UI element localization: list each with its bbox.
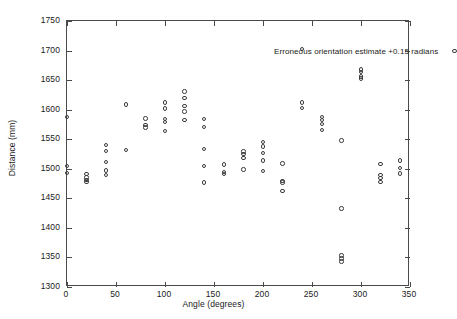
y-tick-label-1600: 1600 (20, 104, 60, 114)
y-tick-label-1500: 1500 (20, 163, 60, 173)
data-point (124, 148, 128, 152)
x-tick-top-50 (116, 21, 117, 26)
x-tick-250 (312, 282, 313, 287)
x-tick-label-350: 350 (389, 289, 429, 299)
data-point (202, 164, 206, 168)
y-tick-1450 (67, 198, 72, 199)
data-point (124, 102, 128, 106)
x-tick-350 (410, 282, 411, 287)
y-tick-1350 (67, 257, 72, 258)
x-tick-100 (165, 282, 166, 287)
x-tick-300 (361, 282, 362, 287)
x-tick-label-50: 50 (95, 289, 135, 299)
data-point (202, 147, 206, 151)
data-point (300, 100, 304, 104)
y-tick-right-1550 (405, 139, 410, 140)
data-point (65, 115, 69, 119)
x-tick-label-100: 100 (144, 289, 184, 299)
y-tick-right-1450 (405, 198, 410, 199)
data-point (339, 206, 343, 210)
data-point (378, 180, 382, 184)
x-tick-top-300 (361, 21, 362, 26)
data-point (241, 156, 245, 160)
data-point (104, 160, 108, 164)
y-tick-label-1450: 1450 (20, 192, 60, 202)
y-tick-right-1650 (405, 80, 410, 81)
data-point (143, 116, 147, 120)
data-point (261, 158, 265, 162)
y-tick-1700 (67, 51, 72, 52)
x-tick-0 (67, 282, 68, 287)
legend-label-0: Erroneous orientation estimate +0.15 rad… (274, 47, 438, 56)
y-tick-1600 (67, 110, 72, 111)
data-point (104, 149, 108, 153)
y-tick-label-1700: 1700 (20, 45, 60, 55)
y-tick-1500 (67, 169, 72, 170)
data-point (339, 259, 343, 263)
y-tick-label-1650: 1650 (20, 74, 60, 84)
data-point (202, 180, 206, 184)
data-point (104, 143, 108, 147)
x-tick-50 (116, 282, 117, 287)
data-point (280, 189, 284, 193)
data-point (280, 180, 284, 184)
plot-area: Erroneous orientation estimate +0.15 rad… (66, 20, 409, 286)
y-tick-label-1350: 1350 (20, 251, 60, 261)
data-point (261, 144, 265, 148)
data-point (143, 125, 147, 129)
legend: Erroneous orientation estimate +0.15 rad… (274, 45, 457, 57)
y-tick-1400 (67, 228, 72, 229)
x-tick-label-200: 200 (242, 289, 282, 299)
data-point (104, 173, 108, 177)
data-point (163, 106, 167, 110)
y-tick-1300 (67, 287, 72, 288)
legend-marker-open-circle (452, 49, 457, 54)
data-point (241, 167, 245, 171)
data-point (261, 169, 265, 173)
x-tick-label-250: 250 (291, 289, 331, 299)
data-point (182, 109, 186, 113)
data-point (65, 171, 69, 175)
data-point (320, 128, 324, 132)
data-point (163, 129, 167, 133)
x-tick-top-250 (312, 21, 313, 26)
data-point (202, 117, 206, 121)
data-point (65, 164, 69, 168)
x-tick-label-0: 0 (46, 289, 86, 299)
data-point (339, 138, 343, 142)
data-point (398, 166, 402, 170)
y-tick-1550 (67, 139, 72, 140)
data-point (378, 162, 382, 166)
y-tick-right-1350 (405, 257, 410, 258)
data-point (163, 100, 167, 104)
data-point (359, 70, 363, 74)
data-point (202, 125, 206, 129)
y-tick-right-1600 (405, 110, 410, 111)
data-point (222, 162, 226, 166)
x-tick-top-0 (67, 21, 68, 26)
data-point (398, 171, 402, 175)
data-point (320, 122, 324, 126)
data-point (300, 106, 304, 110)
y-tick-label-1400: 1400 (20, 222, 60, 232)
y-tick-right-1500 (405, 169, 410, 170)
x-tick-200 (263, 282, 264, 287)
data-point (163, 120, 167, 124)
data-point (182, 104, 186, 108)
data-point (280, 161, 284, 165)
x-tick-top-150 (214, 21, 215, 26)
data-point (359, 76, 363, 80)
data-point (222, 172, 226, 176)
y-tick-label-1550: 1550 (20, 133, 60, 143)
y-axis-title: Distance (mm) (7, 98, 17, 198)
data-point (84, 180, 88, 184)
data-point (182, 96, 186, 100)
x-tick-label-300: 300 (340, 289, 380, 299)
y-tick-right-1400 (405, 228, 410, 229)
y-tick-1650 (67, 80, 72, 81)
x-tick-150 (214, 282, 215, 287)
y-tick-label-1750: 1750 (20, 15, 60, 25)
x-tick-top-100 (165, 21, 166, 26)
data-point (261, 151, 265, 155)
